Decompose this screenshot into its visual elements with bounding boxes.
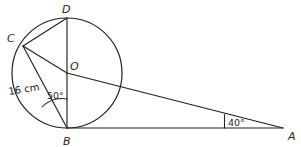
- segment-o-a: [67, 73, 283, 128]
- vertex-label-c: C: [7, 32, 15, 45]
- angle-label-40: 40°: [228, 117, 245, 128]
- vertex-label-d: D: [62, 3, 70, 16]
- angle-label-50: 50°: [47, 90, 64, 101]
- vertex-label-o: O: [70, 60, 79, 73]
- vertex-label-b: B: [63, 135, 71, 147]
- vertex-label-a: A: [287, 130, 296, 143]
- geometry-figure: A B C D O 16 cm 50° 40°: [0, 0, 301, 147]
- geometry-canvas: A B C D O 16 cm 50° 40°: [0, 0, 301, 147]
